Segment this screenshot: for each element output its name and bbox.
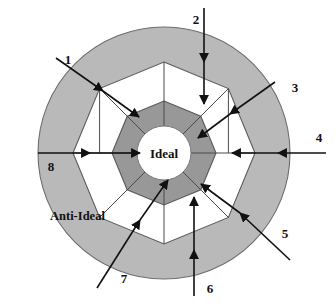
diagram-canvas: 2 1 3 4 5 6 7 8 Ideal Anti-Ideal <box>0 0 336 304</box>
axis-label-2: 2 <box>193 12 200 27</box>
axis-label-8: 8 <box>48 159 55 174</box>
axis-label-7: 7 <box>121 271 128 286</box>
axis-label-1: 1 <box>65 52 72 67</box>
center-label-ideal: Ideal <box>150 146 179 161</box>
axis-label-3: 3 <box>292 80 299 95</box>
outer-label-anti-ideal: Anti-Ideal <box>50 209 105 223</box>
axis-label-4: 4 <box>316 130 323 145</box>
axis-label-6: 6 <box>207 281 214 296</box>
axis-label-5: 5 <box>282 226 289 241</box>
radar-diagram: 2 1 3 4 5 6 7 8 Ideal Anti-Ideal <box>0 0 336 304</box>
